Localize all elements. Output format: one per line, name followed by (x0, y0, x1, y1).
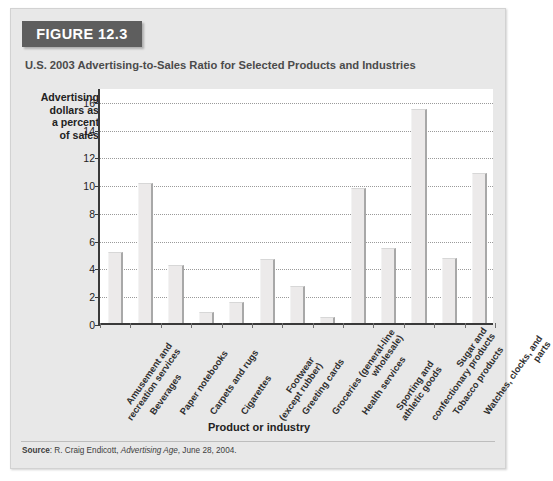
gridline (100, 186, 493, 187)
x-axis-tick-mark (313, 323, 314, 328)
y-axis-tick-label: 16 (83, 97, 95, 109)
bar (199, 312, 214, 323)
bar (138, 183, 153, 323)
bar (168, 265, 183, 323)
y-axis-tick-mark (95, 186, 100, 187)
y-axis-tick-label: 12 (83, 152, 95, 164)
x-axis-tick-mark (434, 323, 435, 328)
y-axis-tick-mark (95, 297, 100, 298)
x-axis-tick-mark (100, 323, 101, 328)
bar (351, 188, 366, 323)
bar (260, 259, 275, 323)
source-divider (21, 441, 495, 442)
y-axis-tick-mark (95, 269, 100, 270)
source-date: , June 28, 2004. (178, 446, 237, 455)
gridline (100, 131, 493, 132)
bar (108, 252, 123, 323)
x-axis-tick-mark (465, 323, 466, 328)
y-axis-tick-mark (95, 214, 100, 215)
y-axis-tick-mark (95, 103, 100, 104)
x-axis-tick-mark (161, 323, 162, 328)
figure-panel: FIGURE 12.3 U.S. 2003 Advertising-to-Sal… (10, 8, 506, 469)
bar (411, 109, 426, 323)
x-axis-tick-mark (191, 323, 192, 328)
source-text: : R. Craig Endicott, (50, 446, 121, 455)
bar (381, 248, 396, 323)
gridline (100, 269, 493, 270)
bar (472, 173, 487, 323)
x-axis-tick-mark (404, 323, 405, 328)
y-axis-tick-mark (95, 131, 100, 132)
source-note: Source: R. Craig Endicott, Advertising A… (22, 446, 237, 455)
x-axis-tick-mark (130, 323, 131, 328)
gridline (100, 214, 493, 215)
y-axis-tick-label: 10 (83, 180, 95, 192)
x-axis-tick-mark (222, 323, 223, 328)
bar (320, 317, 335, 323)
y-axis-tick-mark (95, 242, 100, 243)
source-label: Source (22, 446, 50, 455)
x-axis-tick-mark (282, 323, 283, 328)
x-axis-tick-mark (252, 323, 253, 328)
gridline (100, 158, 493, 159)
x-axis-tick-mark (495, 323, 496, 328)
bar (229, 302, 244, 323)
source-publication: Advertising Age (121, 446, 178, 455)
plot-area: 0246810121416 Amusement and recreation s… (98, 89, 493, 325)
x-axis-tick-mark (343, 323, 344, 328)
bar (290, 286, 305, 323)
x-axis-tick-mark (373, 323, 374, 328)
bar (442, 258, 457, 323)
gridline (100, 103, 493, 104)
y-axis-tick-mark (95, 158, 100, 159)
x-axis-tick-label: Watches, clocks, and parts (482, 334, 553, 423)
bar-chart: Advertisingdollars asa percentof sales 0… (11, 9, 507, 470)
gridline (100, 242, 493, 243)
x-axis-title: Product or industry (11, 421, 507, 433)
y-axis-tick-label: 14 (83, 125, 95, 137)
